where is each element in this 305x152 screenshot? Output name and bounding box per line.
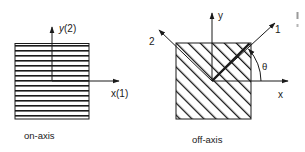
cropped-edge-fragment (297, 12, 299, 27)
off-axis-x-label: x (278, 89, 283, 100)
laminate-orientation-diagram: y(2) x(1) on-axis y x 1 2 θ off-axis (0, 0, 305, 152)
on-axis-y-label: y(2) (58, 23, 76, 34)
on-axis-panel: y(2) x(1) on-axis (15, 23, 128, 141)
axis-1-label: 1 (275, 24, 281, 35)
on-axis-y-label-suffix: (2) (64, 23, 76, 34)
off-axis-panel: y x 1 2 θ off-axis (149, 10, 288, 145)
off-axis-y-label: y (218, 10, 223, 21)
off-axis-caption: off-axis (192, 134, 223, 145)
on-axis-x-label: x(1) (111, 88, 128, 99)
theta-label: θ (262, 61, 267, 72)
on-axis-caption: on-axis (24, 130, 55, 141)
axis-2-label: 2 (149, 36, 155, 47)
